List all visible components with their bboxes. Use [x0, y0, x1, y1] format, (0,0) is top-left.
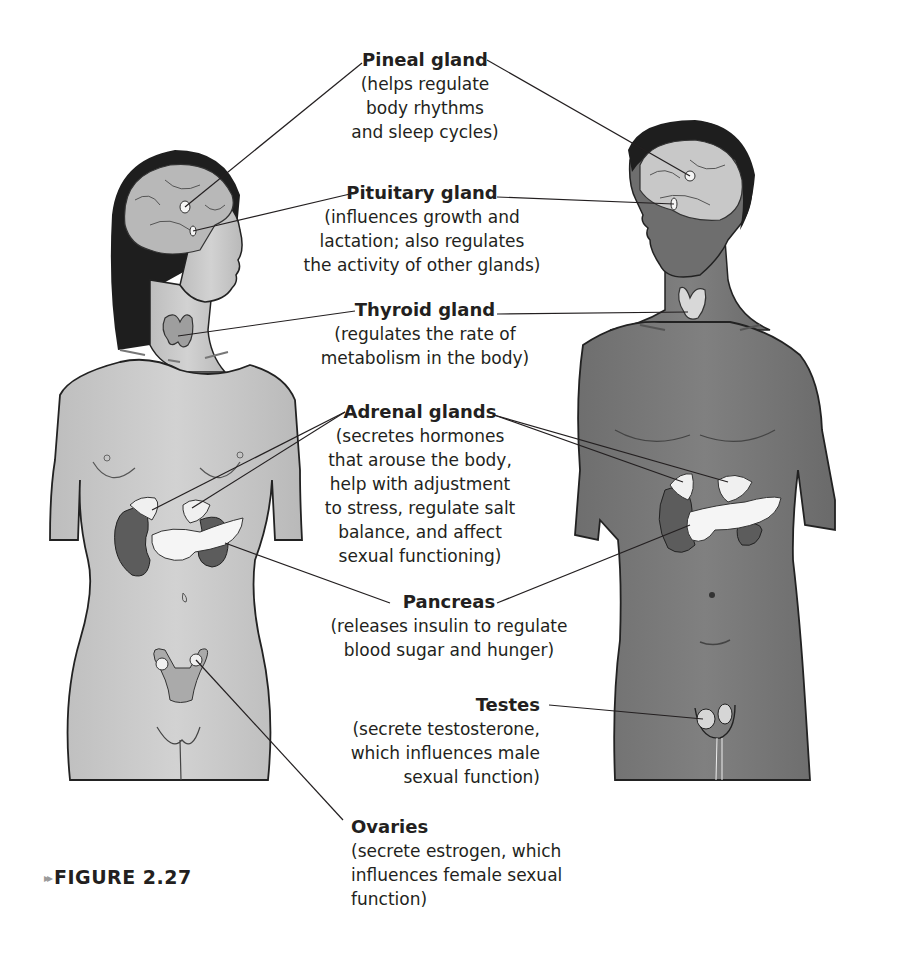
- label-pancreas: Pancreas (releases insulin to regulate b…: [318, 590, 580, 662]
- label-pituitary-gland: Pituitary gland (influences growth and l…: [298, 181, 546, 277]
- female-figure: [50, 150, 302, 780]
- pituitary-gland-description: (influences growth and lactation; also r…: [298, 205, 546, 277]
- ovaries-description: (secrete estrogen, which influences fema…: [351, 839, 591, 911]
- testes-description: (secrete testosterone, which influences …: [330, 717, 540, 789]
- thyroid-gland-description: (regulates the rate of metabolism in the…: [310, 322, 540, 370]
- female-torso: [50, 360, 302, 780]
- female-ovary-left: [156, 658, 168, 670]
- label-thyroid-gland: Thyroid gland (regulates the rate of met…: [310, 298, 540, 370]
- label-ovaries: Ovaries (secrete estrogen, which influen…: [351, 815, 591, 911]
- adrenal-glands-description: (secretes hormones that arouse the body,…: [320, 424, 520, 568]
- ovaries-title: Ovaries: [351, 815, 591, 839]
- label-testes: Testes (secrete testosterone, which infl…: [330, 693, 540, 789]
- pineal-gland-description: (helps regulate body rhythms and sleep c…: [350, 72, 500, 144]
- pituitary-gland-title: Pituitary gland: [298, 181, 546, 205]
- figure-number: FIGURE 2.27: [54, 866, 192, 888]
- thyroid-gland-title: Thyroid gland: [310, 298, 540, 322]
- pancreas-title: Pancreas: [318, 590, 580, 614]
- adrenal-glands-title: Adrenal glands: [320, 400, 520, 424]
- label-adrenal-glands: Adrenal glands (secretes hormones that a…: [320, 400, 520, 568]
- testes-title: Testes: [330, 693, 540, 717]
- pancreas-description: (releases insulin to regulate blood suga…: [318, 614, 580, 662]
- male-testis-right: [718, 704, 732, 724]
- male-figure: [575, 120, 835, 780]
- pineal-gland-title: Pineal gland: [350, 48, 500, 72]
- caption-arrow-icon: ▸▸: [44, 871, 50, 885]
- label-pineal-gland: Pineal gland (helps regulate body rhythm…: [350, 48, 500, 144]
- figure-caption: ▸▸FIGURE 2.27: [44, 866, 192, 888]
